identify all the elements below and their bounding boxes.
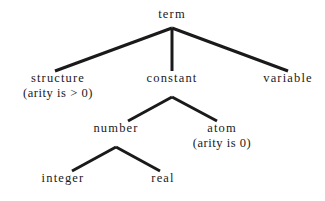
- tree-node-sublabel-atom: (arity is 0): [193, 137, 252, 151]
- tree-node-variable: variable: [263, 72, 312, 86]
- tree-node-label-structure: structure: [23, 72, 93, 86]
- tree-edge-number-to-real: [116, 147, 160, 171]
- term-taxonomy-diagram: termstructure(arity is > 0)constantvaria…: [0, 0, 325, 201]
- tree-node-label-number: number: [93, 122, 138, 136]
- tree-edge-constant-to-atom: [172, 97, 217, 121]
- tree-node-integer: integer: [42, 172, 85, 186]
- tree-edge-term-to-structure: [55, 28, 172, 71]
- tree-node-sublabel-structure: (arity is > 0): [23, 87, 93, 101]
- tree-edge-number-to-integer: [72, 147, 116, 171]
- tree-node-label-real: real: [151, 172, 174, 186]
- tree-node-atom: atom(arity is 0): [193, 122, 252, 150]
- tree-node-number: number: [93, 122, 138, 136]
- tree-node-label-term: term: [158, 8, 186, 22]
- tree-edge-constant-to-number: [128, 97, 172, 121]
- tree-node-label-integer: integer: [42, 172, 85, 186]
- tree-node-structure: structure(arity is > 0): [23, 72, 93, 100]
- tree-edge-term-to-variable: [172, 28, 288, 71]
- tree-node-real: real: [151, 172, 174, 186]
- tree-node-label-variable: variable: [263, 72, 312, 86]
- tree-node-label-atom: atom: [193, 122, 252, 136]
- tree-node-term: term: [158, 8, 186, 22]
- tree-node-label-constant: constant: [147, 72, 198, 86]
- tree-node-constant: constant: [147, 72, 198, 86]
